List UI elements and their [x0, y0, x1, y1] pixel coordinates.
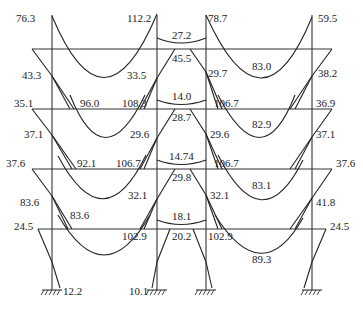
- label-f2-left-midspan: 92.1: [77, 157, 96, 169]
- col-moment-f2-right-b: [295, 198, 312, 229]
- label-f2-col-right: 41.8: [316, 196, 336, 208]
- label-f3-right-left-end: 106.7: [214, 97, 239, 109]
- col-moment-f3-inner-left-b: [144, 138, 157, 169]
- label-f2-col-inner-mid: 29.8: [172, 171, 192, 183]
- label-f3-right-end: 36.9: [316, 97, 336, 109]
- label-f2-col-inner-left: 32.1: [128, 189, 147, 201]
- label-roof-col-left: 43.3: [22, 69, 42, 81]
- label-f1-left-end: 24.5: [14, 220, 34, 232]
- label-roof-inner-right-top: 78.7: [208, 12, 228, 24]
- label-f1-right-left-end: 102.9: [208, 230, 233, 242]
- label-roof-right-end: 59.5: [318, 12, 338, 24]
- label-f1-middle-midspan: 18.1: [172, 210, 191, 222]
- label-f2-left-right-end: 106.7: [116, 157, 141, 169]
- label-roof-right-midspan: 83.0: [252, 60, 272, 72]
- col-moment-roof-right-b: [295, 76, 312, 109]
- label-f2-right-end: 37.6: [336, 157, 356, 169]
- col-moment-f1-inner-left: [152, 229, 170, 288]
- support-inner-right: [195, 290, 216, 295]
- label-f1-left-right-end: 102.9: [122, 230, 147, 242]
- fixed-supports: [41, 290, 322, 295]
- label-f2-col-inner-right: 32.1: [210, 189, 229, 201]
- label-roof-middle-midspan: 27.2: [172, 29, 191, 41]
- label-f3-left-end: 35.1: [14, 97, 33, 109]
- col-moment-f3-right-b: [295, 137, 312, 169]
- label-f1-middle-col: 20.2: [172, 230, 191, 242]
- label-f2-col-left: 83.6: [20, 196, 40, 208]
- label-base-inner-left: 10.1: [129, 285, 148, 297]
- bending-moment-diagram: 76.3 112.2 27.2 78.7 59.5 43.3 33.5 45.5…: [0, 0, 363, 313]
- support-right: [301, 290, 322, 295]
- col-moment-f1-left: [38, 229, 60, 288]
- frame-beams: [32, 49, 332, 229]
- support-inner-left: [146, 290, 167, 295]
- label-roof-left-midspan: 33.5: [127, 69, 147, 81]
- label-f3-left-right-end: 108.3: [122, 97, 147, 109]
- label-roof-col-inner-left: 45.5: [172, 52, 192, 64]
- label-roof-inner-left-top: 112.2: [127, 12, 151, 24]
- label-roof-left-end: 76.3: [16, 12, 36, 24]
- support-left: [41, 290, 62, 295]
- col-moment-f2-inner-left-b: [144, 199, 157, 229]
- label-f3-middle-midspan: 14.0: [172, 90, 192, 102]
- label-f3-right-midspan: 82.9: [252, 118, 272, 130]
- label-f3-col-inner-left: 29.6: [130, 128, 150, 140]
- label-f3-col-right: 37.1: [316, 128, 335, 140]
- label-f3-left-midspan: 96.0: [80, 97, 100, 109]
- col-moment-roof-left-b: [52, 76, 70, 109]
- col-moment-f2-left-b: [52, 196, 68, 229]
- label-roof-col-inner-right: 29.7: [208, 67, 228, 79]
- label-f3-col-inner-right: 29.6: [210, 128, 230, 140]
- label-f3-col-inner-mid: 28.7: [172, 111, 192, 123]
- label-f2-left-beam-end: 83.6: [70, 209, 90, 221]
- label-f2-left-end: 37.6: [6, 157, 26, 169]
- label-f1-right-end: 24.5: [330, 220, 350, 232]
- label-f1-right-midspan: 89.3: [252, 253, 272, 265]
- label-f3-col-left: 37.1: [24, 128, 43, 140]
- label-roof-col-right: 38.2: [318, 67, 337, 79]
- label-f2-middle-midspan: 14.74: [169, 150, 194, 162]
- label-base-left: 12.2: [63, 285, 82, 297]
- label-f2-right-left-end: 106.7: [214, 157, 239, 169]
- col-moment-f1-right: [304, 229, 326, 288]
- label-f2-right-midspan: 83.1: [252, 179, 271, 191]
